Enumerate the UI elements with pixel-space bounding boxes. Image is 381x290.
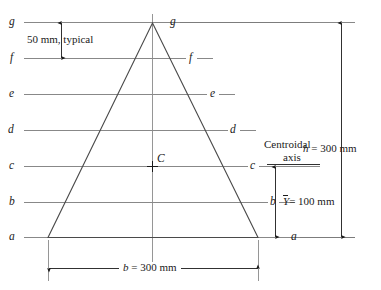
row-label-right-g: g <box>170 16 176 28</box>
base-annotation: b = 300 mm <box>119 262 181 273</box>
row-label-left-b: b <box>9 196 15 208</box>
height-annotation: h = 300 mm <box>303 143 357 154</box>
triangle-cross-section-figure: g f e d c b a g f e d c b a C 50 mm, typ… <box>0 0 381 290</box>
centroid-label: C <box>157 153 165 165</box>
row-label-left-d: d <box>8 124 14 136</box>
height-value: = 300 mm <box>309 142 357 154</box>
ybar-symbol: Y <box>283 195 289 207</box>
row-label-right-a: a <box>291 231 297 243</box>
row-label-right-d: d <box>230 124 236 136</box>
row-label-left-c: c <box>9 160 14 172</box>
row-label-left-a: a <box>9 231 15 243</box>
row-label-right-e: e <box>210 88 215 100</box>
ybar-symbol-wrap: Y <box>283 196 289 207</box>
spacing-annotation: 50 mm, typical <box>27 34 93 45</box>
ybar-annotation: Y= 100 mm <box>283 196 334 207</box>
centroidal-axis-line1: Centroidal <box>264 139 310 150</box>
row-label-right-c: c <box>250 160 255 172</box>
ybar-value: = 100 mm <box>289 195 334 207</box>
row-label-left-e: e <box>9 88 14 100</box>
centroidal-axis-line2: axis <box>283 152 301 163</box>
row-label-left-f: f <box>10 52 13 64</box>
row-label-right-b: b <box>270 196 276 208</box>
ybar-overbar <box>283 195 288 196</box>
row-label-left-g: g <box>9 16 15 28</box>
base-value: = 300 mm <box>129 261 177 273</box>
row-label-right-f: f <box>189 52 192 64</box>
